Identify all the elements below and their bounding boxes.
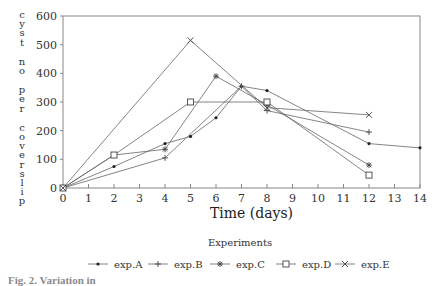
x-tick-label: 4 bbox=[162, 192, 169, 205]
svg-text:t: t bbox=[20, 37, 24, 48]
svg-text:p: p bbox=[19, 195, 25, 206]
svg-text:r: r bbox=[20, 103, 25, 114]
x-tick-label: 14 bbox=[413, 192, 427, 205]
x-tick-label: 8 bbox=[264, 192, 271, 205]
series-exp-e bbox=[60, 37, 372, 191]
x-tick-label: 7 bbox=[238, 192, 245, 205]
legend-title: Experiments bbox=[208, 237, 272, 248]
line-chart: 010020030040050060001234567891011121314T… bbox=[0, 0, 438, 286]
y-tick-label: 300 bbox=[36, 96, 57, 109]
x-tick-label: 13 bbox=[388, 192, 402, 205]
y-axis-label: cystnopercoverslip bbox=[18, 9, 26, 206]
x-tick-label: 5 bbox=[187, 192, 194, 205]
x-tick-label: 9 bbox=[289, 192, 296, 205]
legend-label: exp.E bbox=[361, 259, 389, 270]
y-tick-label: 600 bbox=[36, 10, 57, 23]
legend-item: exp.D bbox=[276, 259, 331, 270]
y-tick-label: 200 bbox=[36, 125, 57, 138]
series-exp-c bbox=[60, 73, 372, 191]
svg-text:o: o bbox=[19, 65, 25, 76]
legend-item: exp.B bbox=[148, 259, 203, 270]
y-tick-label: 500 bbox=[36, 39, 57, 52]
figure-caption: Fig. 2. Variation in bbox=[8, 274, 96, 286]
legend-label: exp.D bbox=[302, 259, 331, 270]
legend-item: exp.C bbox=[210, 259, 265, 270]
legend-label: exp.A bbox=[114, 259, 143, 270]
y-tick-label: 100 bbox=[36, 153, 57, 166]
x-tick-label: 6 bbox=[213, 192, 220, 205]
x-tick-label: 12 bbox=[362, 192, 376, 205]
legend-item: exp.A bbox=[88, 259, 143, 270]
y-axis: 0100200300400500600 bbox=[36, 10, 63, 195]
x-tick-label: 1 bbox=[85, 192, 92, 205]
legend-item: exp.E bbox=[335, 259, 389, 270]
x-tick-label: 3 bbox=[136, 192, 143, 205]
x-tick-label: 10 bbox=[311, 192, 325, 205]
y-tick-label: 400 bbox=[36, 67, 57, 80]
y-tick-label: 0 bbox=[50, 182, 57, 195]
legend-label: exp.B bbox=[174, 259, 203, 270]
x-tick-label: 0 bbox=[60, 192, 67, 205]
x-axis-label: Time (days) bbox=[210, 205, 293, 221]
x-axis: 01234567891011121314 bbox=[60, 184, 428, 205]
x-tick-label: 2 bbox=[111, 192, 118, 205]
x-tick-label: 11 bbox=[337, 192, 351, 205]
legend: Experimentsexp.Aexp.Bexp.Cexp.Dexp.E bbox=[88, 237, 389, 270]
series-exp-d bbox=[60, 99, 372, 191]
legend-label: exp.C bbox=[236, 259, 265, 270]
